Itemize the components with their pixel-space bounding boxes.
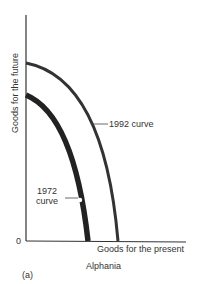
chart-title: Alphania [86, 261, 121, 271]
x-axis-label: Goods for the present [97, 244, 184, 254]
y-axis-label: Goods for the future [10, 38, 20, 148]
curve-1972 [26, 95, 88, 241]
annotation-1972-line2: curve [36, 196, 58, 206]
origin-label: 0 [16, 236, 21, 246]
panel-label: (a) [22, 270, 33, 280]
annotation-1972-line1: 1972 [37, 186, 57, 196]
point-marker [78, 198, 82, 202]
x-axis [26, 241, 186, 242]
annotation-1992-curve: 1992 curve [109, 119, 154, 129]
ppf-chart [0, 0, 208, 284]
